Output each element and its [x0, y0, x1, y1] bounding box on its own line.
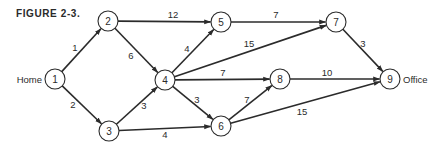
node-2: 2 [98, 11, 118, 31]
node-4: 4 [155, 70, 175, 90]
edge-4-8 [175, 79, 270, 80]
edge-1-3 [62, 86, 101, 124]
edge-3-4 [116, 87, 157, 124]
edge-4-6 [173, 86, 213, 119]
edge-weight-7-9: 3 [360, 38, 365, 49]
edge-weight-5-7: 7 [273, 9, 278, 20]
node-label: 1 [52, 74, 58, 85]
edge-weight-2-5: 12 [168, 9, 179, 20]
node-8: 8 [270, 69, 290, 89]
edge-weight-6-8: 7 [244, 94, 249, 105]
edge-4-7 [174, 25, 326, 76]
office-label: Office [403, 74, 428, 85]
network-graph: 1212634415737715310 123456789 Home Offic… [0, 0, 442, 146]
edge-6-8 [229, 86, 272, 120]
node-5: 5 [211, 12, 231, 32]
edge-weight-4-8: 7 [220, 67, 225, 78]
edge-2-4 [115, 28, 158, 72]
edge-1-2 [62, 29, 101, 72]
network-figure: FIGURE 2-3. 1212634415737715310 12345678… [0, 0, 442, 146]
edge-6-9 [231, 82, 380, 124]
edge-weight-3-4: 3 [141, 100, 146, 111]
node-6: 6 [211, 116, 231, 136]
node-7: 7 [326, 12, 346, 32]
edge-weight-1-2: 1 [72, 42, 77, 53]
edge-2-5 [118, 21, 211, 22]
node-1: 1 [45, 69, 65, 89]
edge-weight-4-5: 4 [184, 43, 189, 54]
node-label: 3 [106, 126, 112, 137]
node-label: 8 [277, 74, 283, 85]
node-label: 9 [387, 74, 393, 85]
edge-weight-3-6: 4 [162, 129, 167, 140]
home-label: Home [17, 74, 42, 85]
edge-weight-8-9: 10 [322, 67, 333, 78]
edge-7-9 [343, 29, 383, 71]
edge-weight-4-7: 15 [244, 38, 255, 49]
node-label: 6 [218, 121, 224, 132]
node-3: 3 [99, 121, 119, 141]
edge-weight-4-6: 3 [194, 94, 199, 105]
edge-weight-6-9: 15 [297, 106, 308, 117]
node-9: 9 [380, 69, 400, 89]
node-label: 5 [218, 17, 224, 28]
edge-weight-2-4: 6 [128, 50, 133, 61]
edge-weight-1-3: 2 [70, 99, 75, 110]
node-label: 4 [162, 75, 168, 86]
node-label: 2 [105, 16, 111, 27]
node-label: 7 [333, 17, 339, 28]
